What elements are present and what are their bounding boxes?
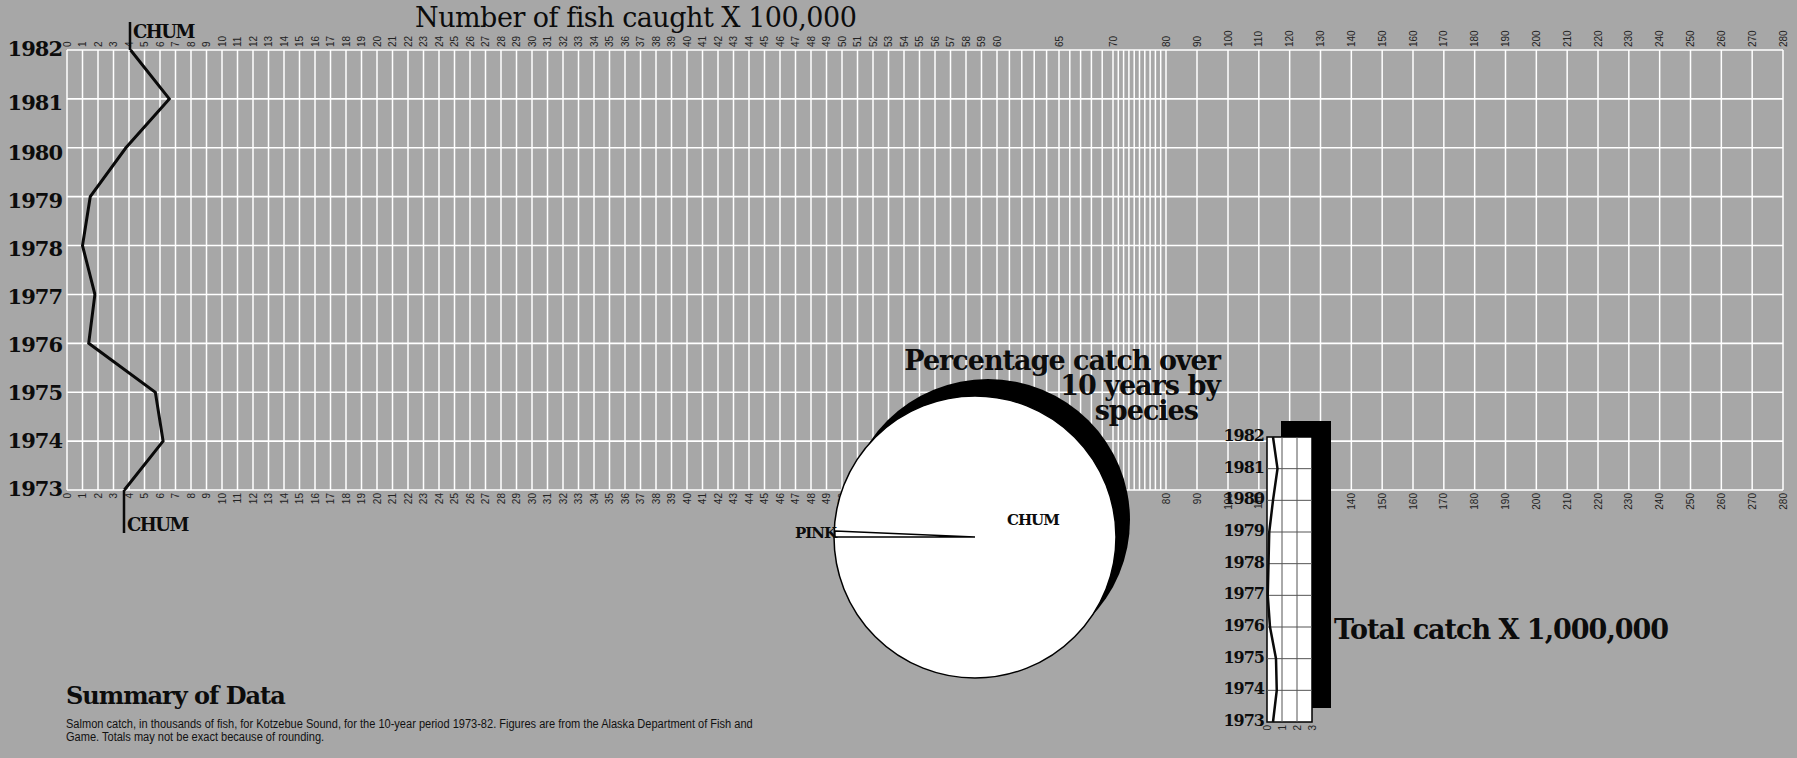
svg-text:0: 0 <box>62 41 73 47</box>
svg-text:9: 9 <box>201 493 212 499</box>
svg-text:38: 38 <box>651 35 662 47</box>
svg-text:80: 80 <box>1161 493 1172 505</box>
svg-text:27: 27 <box>480 35 491 47</box>
svg-text:250: 250 <box>1685 30 1696 47</box>
svg-text:12: 12 <box>248 493 259 505</box>
svg-text:20: 20 <box>372 35 383 47</box>
svg-text:60: 60 <box>992 35 1003 47</box>
svg-text:51: 51 <box>852 35 863 47</box>
svg-text:33: 33 <box>573 493 584 505</box>
total-year-label: 1976 <box>1214 616 1264 635</box>
svg-text:160: 160 <box>1408 30 1419 47</box>
svg-text:1: 1 <box>77 41 88 47</box>
svg-text:36: 36 <box>620 493 631 505</box>
svg-text:18: 18 <box>341 35 352 47</box>
svg-text:40: 40 <box>682 493 693 505</box>
total-year-label: 1974 <box>1214 679 1264 698</box>
year-label: 1982 <box>0 36 62 61</box>
svg-text:80: 80 <box>1161 35 1172 47</box>
svg-text:280: 280 <box>1778 30 1789 47</box>
total-catch-title: Total catch X 1,000,000 <box>1334 614 1668 645</box>
svg-text:90: 90 <box>1192 493 1203 505</box>
svg-text:43: 43 <box>728 493 739 505</box>
svg-text:58: 58 <box>961 35 972 47</box>
svg-text:140: 140 <box>1346 493 1357 510</box>
svg-text:170: 170 <box>1438 30 1449 47</box>
svg-text:31: 31 <box>542 35 553 47</box>
svg-text:70: 70 <box>1108 35 1119 47</box>
svg-text:42: 42 <box>713 493 724 505</box>
year-label: 1974 <box>0 428 62 453</box>
svg-text:23: 23 <box>418 493 429 505</box>
svg-text:17: 17 <box>325 493 336 505</box>
total-axis-ticks: 0123 <box>1262 725 1318 731</box>
svg-text:3: 3 <box>108 493 119 499</box>
svg-text:90: 90 <box>1192 35 1203 47</box>
infographic: 0123456789101112131415161718192021222324… <box>0 0 1797 758</box>
svg-text:48: 48 <box>806 493 817 505</box>
svg-text:37: 37 <box>635 35 646 47</box>
total-catch-chart: 0123 <box>1262 421 1332 731</box>
svg-text:49: 49 <box>821 35 832 47</box>
svg-text:34: 34 <box>589 493 600 505</box>
svg-text:150: 150 <box>1377 493 1388 510</box>
svg-text:10: 10 <box>217 493 228 505</box>
svg-text:41: 41 <box>697 493 708 505</box>
svg-text:10: 10 <box>217 35 228 47</box>
svg-text:30: 30 <box>527 493 538 505</box>
svg-text:43: 43 <box>728 35 739 47</box>
svg-text:230: 230 <box>1623 30 1634 47</box>
year-label: 1978 <box>0 236 62 261</box>
svg-text:250: 250 <box>1685 493 1696 510</box>
summary-text: Salmon catch, in thousands of fish, for … <box>66 718 784 744</box>
svg-text:170: 170 <box>1438 493 1449 510</box>
svg-text:2: 2 <box>1292 725 1303 731</box>
svg-text:35: 35 <box>604 35 615 47</box>
year-label: 1976 <box>0 332 62 357</box>
svg-text:46: 46 <box>775 493 786 505</box>
total-year-label: 1975 <box>1214 648 1264 667</box>
svg-text:270: 270 <box>1747 30 1758 47</box>
svg-text:260: 260 <box>1716 493 1727 510</box>
svg-text:22: 22 <box>403 493 414 505</box>
svg-text:190: 190 <box>1500 493 1511 510</box>
total-panel <box>1267 437 1312 722</box>
svg-text:17: 17 <box>325 35 336 47</box>
svg-text:21: 21 <box>387 493 398 505</box>
svg-text:110: 110 <box>1253 31 1264 47</box>
svg-text:140: 140 <box>1346 30 1357 47</box>
svg-text:27: 27 <box>480 493 491 505</box>
year-label: 1973 <box>0 476 62 501</box>
svg-text:220: 220 <box>1593 493 1604 510</box>
svg-text:37: 37 <box>635 493 646 505</box>
svg-text:25: 25 <box>449 35 460 47</box>
svg-text:3: 3 <box>108 41 119 47</box>
pie-chart <box>834 379 1130 678</box>
svg-text:11: 11 <box>232 493 243 504</box>
svg-text:12: 12 <box>248 35 259 47</box>
svg-text:46: 46 <box>775 35 786 47</box>
svg-text:45: 45 <box>759 35 770 47</box>
svg-text:33: 33 <box>573 35 584 47</box>
main-chart-title: Number of fish caught X 100,000 <box>415 2 856 33</box>
svg-text:24: 24 <box>434 35 445 47</box>
svg-text:11: 11 <box>232 36 243 47</box>
svg-text:53: 53 <box>883 35 894 47</box>
svg-text:2: 2 <box>93 41 104 47</box>
svg-text:230: 230 <box>1623 493 1634 510</box>
svg-text:29: 29 <box>511 493 522 505</box>
year-label: 1975 <box>0 380 62 405</box>
pie-label-pink: PINK <box>795 524 836 542</box>
svg-text:57: 57 <box>945 35 956 47</box>
svg-text:19: 19 <box>356 493 367 505</box>
svg-text:160: 160 <box>1408 493 1419 510</box>
svg-text:20: 20 <box>372 493 383 505</box>
total-year-label: 1978 <box>1214 553 1264 572</box>
total-year-label: 1973 <box>1214 711 1264 730</box>
svg-text:32: 32 <box>558 493 569 505</box>
svg-text:13: 13 <box>263 35 274 47</box>
svg-text:56: 56 <box>930 35 941 47</box>
year-label: 1977 <box>0 284 62 309</box>
year-label: 1980 <box>0 140 62 165</box>
svg-text:100: 100 <box>1223 30 1234 47</box>
